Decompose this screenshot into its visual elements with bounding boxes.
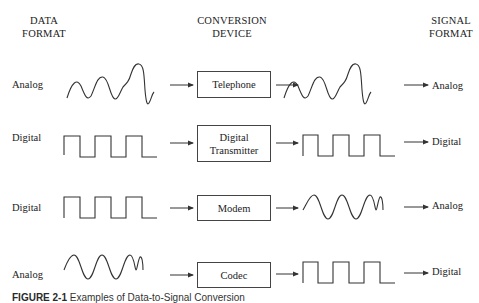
caption-label: FIGURE 2-1 [12,292,67,303]
figure-caption: FIGURE 2-1 Examples of Data-to-Signal Co… [12,292,245,303]
sine-wave-output [303,195,383,219]
square-wave-input [64,136,157,157]
analog-irregular-wave-output [284,64,371,104]
caption-text: Examples of Data-to-Signal Conversion [70,292,245,303]
sine-wave-input [64,255,143,279]
square-wave-output [303,262,395,283]
square-wave-output [303,135,395,156]
analog-irregular-wave-input [67,64,154,104]
square-wave-input [64,197,157,218]
